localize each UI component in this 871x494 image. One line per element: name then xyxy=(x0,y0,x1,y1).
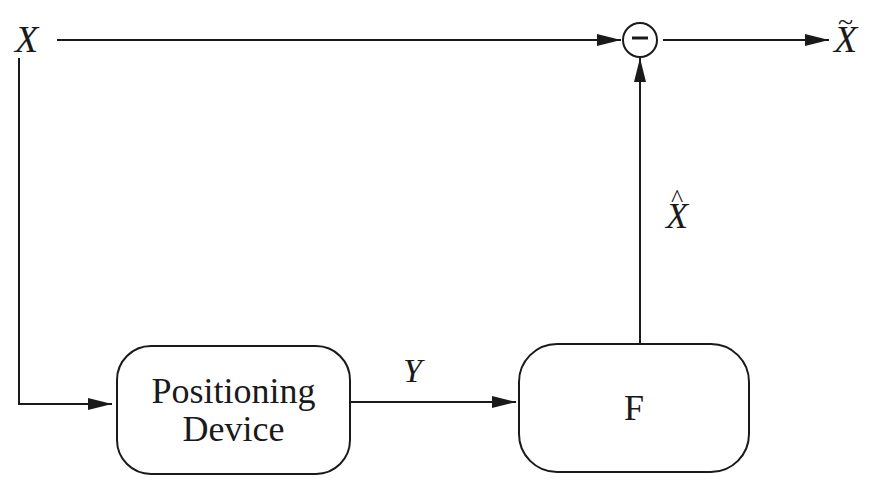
estimate-label: ^ X xyxy=(666,198,688,234)
input-label: X xyxy=(15,20,38,58)
hat-accent: ^ xyxy=(666,186,688,212)
positioning-device-line1: Positioning xyxy=(151,372,315,410)
edge-x-to-positioning-device xyxy=(19,58,112,404)
subtractor-circle xyxy=(623,23,657,57)
tilde-accent: ~ xyxy=(834,8,857,36)
output-label: ~ X xyxy=(834,20,857,58)
y-signal-label: Y xyxy=(403,354,422,388)
positioning-device-line2: Device xyxy=(183,410,285,448)
positioning-device-label: Positioning Device xyxy=(117,346,350,474)
f-block-label: F xyxy=(519,344,749,472)
